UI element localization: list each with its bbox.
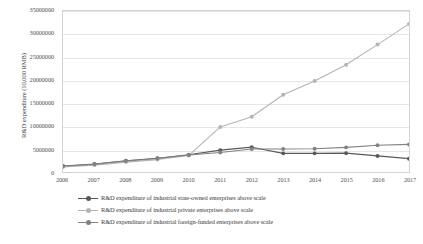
data-point bbox=[187, 153, 191, 157]
legend-item-1[interactable]: R&D expenditure of industrial private en… bbox=[78, 204, 378, 216]
x-axis-tick-label: 2014 bbox=[309, 176, 321, 183]
x-axis-tick-label: 2012 bbox=[246, 176, 258, 183]
legend-item-0[interactable]: R&D expenditure of industrial state-owne… bbox=[78, 192, 378, 204]
y-axis-tick-labels: 0500000010000000150000002000000025000000… bbox=[0, 10, 58, 173]
data-point bbox=[218, 150, 222, 154]
y-axis-tick-label: 0 bbox=[51, 170, 54, 176]
y-axis-tick-label: 10000000 bbox=[30, 123, 54, 129]
legend-label: R&D expenditure of industrial foreign-fu… bbox=[101, 218, 273, 226]
data-point bbox=[250, 147, 254, 151]
legend-label: R&D expenditure of industrial private en… bbox=[101, 206, 253, 214]
y-axis-tick-label: 15000000 bbox=[30, 100, 54, 106]
y-axis-tick-label: 25000000 bbox=[30, 53, 54, 59]
x-axis-tick-label: 2009 bbox=[151, 176, 163, 183]
x-axis-tick-label: 2013 bbox=[277, 176, 289, 183]
y-axis-tick-label: 5000000 bbox=[33, 147, 54, 153]
data-point bbox=[407, 157, 409, 161]
data-point bbox=[281, 151, 285, 155]
legend-marker-icon bbox=[78, 194, 98, 203]
x-axis-tick-label: 2007 bbox=[88, 176, 100, 183]
data-point bbox=[218, 125, 222, 129]
x-axis-tick-label: 2016 bbox=[372, 176, 384, 183]
x-axis-tick-label: 2010 bbox=[182, 176, 194, 183]
data-point bbox=[313, 79, 317, 83]
data-point bbox=[250, 115, 254, 119]
data-point bbox=[376, 143, 380, 147]
data-point bbox=[313, 151, 317, 155]
x-axis-tick-label: 2011 bbox=[214, 176, 226, 183]
series-line-1 bbox=[63, 24, 409, 167]
data-point bbox=[124, 159, 128, 163]
data-point bbox=[376, 43, 380, 47]
y-axis-tick-label: 20000000 bbox=[30, 77, 54, 83]
data-point bbox=[344, 145, 348, 149]
y-axis-tick-label: 30000000 bbox=[30, 30, 54, 36]
x-axis-tick-label: 2006 bbox=[56, 176, 68, 183]
data-point bbox=[313, 147, 317, 151]
y-axis-tick-label: 35000000 bbox=[30, 7, 54, 13]
legend-marker-icon bbox=[78, 218, 98, 227]
chart-figure: R&D expenditure (10,000 RMB) 05000000100… bbox=[0, 0, 423, 244]
plot-area bbox=[62, 10, 410, 173]
legend-item-2[interactable]: R&D expenditure of industrial foreign-fu… bbox=[78, 216, 378, 228]
legend-marker-icon bbox=[78, 206, 98, 215]
data-point bbox=[155, 156, 159, 160]
data-point bbox=[281, 93, 285, 97]
x-axis-tick-label: 2015 bbox=[341, 176, 353, 183]
data-point bbox=[344, 63, 348, 67]
chart-legend: R&D expenditure of industrial state-owne… bbox=[78, 192, 378, 228]
legend-label: R&D expenditure of industrial state-owne… bbox=[101, 194, 266, 202]
x-axis-tick-label: 2017 bbox=[404, 176, 416, 183]
data-point bbox=[376, 154, 380, 158]
x-axis-tick-labels: 2006200720082009201020112012201320142015… bbox=[62, 176, 410, 188]
series-lines bbox=[63, 11, 409, 172]
data-point bbox=[281, 147, 285, 151]
x-axis-tick-label: 2008 bbox=[119, 176, 131, 183]
data-point bbox=[92, 162, 96, 166]
data-point bbox=[407, 142, 409, 146]
data-point bbox=[344, 151, 348, 155]
